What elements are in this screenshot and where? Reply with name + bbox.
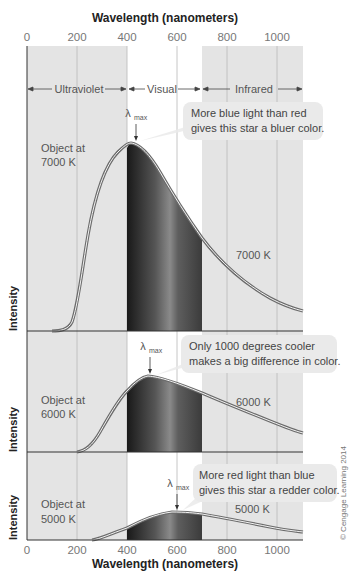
lambda-arrow-head-5000k: [175, 505, 179, 510]
object-label-7000k-line1: Object at: [41, 142, 85, 154]
top-tick-400: 400: [117, 31, 136, 43]
callout-7000k-line1: More blue light than red: [191, 107, 307, 119]
ylabel-panel-1: Intensity: [7, 285, 19, 331]
ylabel-panel-2: Intensity: [7, 406, 19, 452]
bottom-tick-400: 400: [117, 544, 136, 556]
bottom-tick-0: 0: [24, 544, 30, 556]
lambda-sub-7000k: max: [134, 114, 148, 121]
lambda-symbol-5000k: λ: [167, 477, 173, 489]
top-tick-800: 800: [217, 31, 236, 43]
lambda-arrow-head-7000k: [134, 136, 138, 141]
object-label-7000k-line2: 7000 K: [41, 156, 77, 168]
curve-label-5000k: 5000 K: [235, 503, 271, 515]
bottom-tick-600: 600: [167, 544, 186, 556]
copyright-notice: © Cengage Learning 2014: [339, 445, 348, 540]
object-label-6000k-line1: Object at: [41, 394, 85, 406]
lambda-symbol-7000k: λ: [125, 107, 131, 119]
callout-6000k-line2: makes a big difference in color.: [189, 355, 340, 367]
curve-label-6000k: 6000 K: [236, 396, 272, 408]
lambda-sub-6000k: max: [149, 347, 163, 354]
callout-7000k-line2: gives this star a bluer color.: [191, 122, 324, 134]
blackbody-chart: Wavelength (nanometers) 0 200 400 600 80…: [0, 0, 355, 572]
top-tick-600: 600: [167, 31, 186, 43]
object-label-5000k-line2: 5000 K: [41, 513, 77, 525]
top-axis-title: Wavelength (nanometers): [92, 11, 238, 25]
top-tick-0: 0: [24, 31, 30, 43]
region-ultraviolet: Ultraviolet: [55, 83, 104, 95]
bottom-axis-title: Wavelength (nanometers): [92, 557, 238, 571]
bottom-tick-1000: 1000: [264, 544, 290, 556]
bottom-tick-200: 200: [67, 544, 86, 556]
lambda-arrow-head-6000k: [148, 369, 152, 374]
lambda-sub-5000k: max: [176, 484, 190, 491]
top-tick-200: 200: [67, 31, 86, 43]
ylabel-panel-3: Intensity: [7, 494, 19, 540]
top-tick-1000: 1000: [264, 31, 290, 43]
region-visual: Visual: [147, 83, 177, 95]
object-label-5000k-line1: Object at: [41, 498, 85, 510]
callout-5000k-line2: gives this star a redder color.: [199, 484, 340, 496]
lambda-symbol-6000k: λ: [140, 340, 146, 352]
object-label-6000k-line2: 6000 K: [41, 408, 77, 420]
bottom-tick-800: 800: [217, 544, 236, 556]
callout-5000k-line1: More red light than blue: [199, 469, 315, 481]
callout-6000k-line1: Only 1000 degrees cooler: [189, 340, 315, 352]
top-axis-ticks: 0 200 400 600 800 1000: [24, 31, 290, 43]
curve-label-7000k: 7000 K: [236, 249, 272, 261]
region-infrared: Infrared: [235, 83, 273, 95]
bottom-axis-ticks: 0 200 400 600 800 1000: [24, 544, 290, 556]
